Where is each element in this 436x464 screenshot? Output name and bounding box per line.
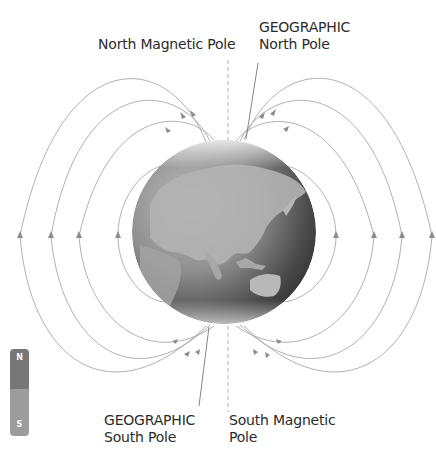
arrow-icon — [195, 349, 200, 355]
arrow-up-icon — [48, 231, 54, 238]
geographic-north-pole-label: GEOGRAPHIC North Pole — [259, 19, 350, 53]
magnet-south-pole: S — [10, 389, 29, 436]
arrow-icon — [253, 349, 258, 355]
north-magnetic-pole-text: North Magnetic Pole — [98, 36, 235, 52]
arrow-icon — [184, 351, 190, 357]
geographic-north-line1: GEOGRAPHIC — [259, 19, 350, 36]
geographic-north-line2: North Pole — [259, 36, 350, 53]
arrow-up-icon — [115, 231, 121, 238]
south-magnetic-pole-label: South Magnetic Pole — [229, 412, 335, 446]
arrow-icon — [265, 352, 270, 358]
arrow-icon — [180, 112, 186, 119]
magnetic-field-diagram — [0, 0, 436, 464]
arrow-icon — [270, 109, 276, 116]
bar-magnet-icon: N S — [10, 349, 29, 436]
arrow-icon — [283, 126, 289, 132]
geographic-south-pole-label: GEOGRAPHIC South Pole — [104, 412, 195, 446]
south-magnetic-line2: Pole — [229, 429, 335, 446]
arrow-up-icon — [429, 231, 435, 238]
geographic-south-line1: GEOGRAPHIC — [104, 412, 195, 429]
arrow-up-icon — [399, 231, 405, 238]
arrow-icon — [165, 127, 171, 133]
arrow-up-icon — [76, 231, 82, 238]
arrow-up-icon — [371, 231, 377, 238]
geographic-south-pointer — [199, 327, 209, 406]
arrow-up-icon — [17, 231, 23, 238]
geographic-south-line2: South Pole — [104, 429, 195, 446]
north-magnetic-pole-label: North Magnetic Pole — [98, 36, 235, 53]
australia-landmass — [250, 274, 281, 297]
south-magnetic-line1: South Magnetic — [229, 412, 335, 429]
arrow-up-icon — [333, 231, 339, 238]
magnet-north-pole: N — [10, 349, 29, 389]
